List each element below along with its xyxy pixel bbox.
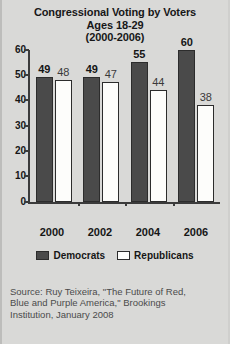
chart-title-line-2: Ages 18-29 xyxy=(12,19,218,32)
x-axis-line xyxy=(28,202,220,204)
source-line-3: Institution, January 2008 xyxy=(10,309,222,320)
bar-democrats-2006[interactable] xyxy=(178,50,195,202)
bar-wrap: 55 xyxy=(131,50,148,202)
y-axis-tick-labels: 0102030405060 xyxy=(6,50,26,202)
bar-republicans-2000[interactable] xyxy=(55,80,72,202)
source-line-2: Blue and Purple America," Brookings xyxy=(10,297,222,308)
legend-swatch-icon xyxy=(36,251,49,260)
bar-wrap: 38 xyxy=(197,50,214,202)
bar-value-label: 49 xyxy=(38,64,50,75)
bar-wrap: 49 xyxy=(36,50,53,202)
y-tick-mark xyxy=(24,99,29,101)
chart-legend: DemocratsRepublicans xyxy=(2,250,228,261)
y-tick-mark xyxy=(24,49,29,51)
bar-group: 4947 xyxy=(78,50,126,202)
bar-wrap: 44 xyxy=(150,50,167,202)
x-tick-label-2004: 2004 xyxy=(124,226,172,238)
plot-area: 0102030405060 4948494755446038 xyxy=(6,50,222,220)
bar-wrap: 49 xyxy=(83,50,100,202)
bar-democrats-2002[interactable] xyxy=(83,77,100,201)
legend-item-republicans[interactable]: Republicans xyxy=(117,250,193,261)
legend-label: Democrats xyxy=(53,250,105,261)
bar-value-label: 38 xyxy=(200,92,212,103)
y-tick-mark xyxy=(24,175,29,177)
bar-value-label: 44 xyxy=(152,77,164,88)
legend-label: Republicans xyxy=(134,250,193,261)
x-tick-label-2002: 2002 xyxy=(76,226,124,238)
bar-republicans-2006[interactable] xyxy=(197,105,214,201)
bar-wrap: 60 xyxy=(178,50,195,202)
x-tick-label-2006: 2006 xyxy=(172,226,220,238)
bar-wrap: 47 xyxy=(102,50,119,202)
x-tick-mark xyxy=(125,202,127,206)
y-tick-mark xyxy=(24,150,29,152)
bar-republicans-2004[interactable] xyxy=(150,90,167,201)
bar-group: 6038 xyxy=(173,50,221,202)
chart-figure: Congressional Voting by Voters Ages 18-2… xyxy=(0,0,230,344)
x-tick-label-2000: 2000 xyxy=(28,226,76,238)
chart-title-line-1: Congressional Voting by Voters xyxy=(12,6,218,19)
source-note: Source: Ruy Teixeira, "The Future of Red… xyxy=(10,286,222,320)
bar-value-label: 49 xyxy=(86,64,98,75)
x-tick-mark xyxy=(173,202,175,206)
bar-group: 4948 xyxy=(30,50,78,202)
legend-item-democrats[interactable]: Democrats xyxy=(36,250,105,261)
bar-group: 5544 xyxy=(125,50,173,202)
bar-value-label: 48 xyxy=(57,67,69,78)
source-line-1: Source: Ruy Teixeira, "The Future of Red… xyxy=(10,286,222,297)
x-axis-tick-labels: 2000200220042006 xyxy=(28,226,220,238)
bars-layer: 4948494755446038 xyxy=(30,50,220,202)
y-tick-mark xyxy=(24,125,29,127)
bar-wrap: 48 xyxy=(55,50,72,202)
bar-value-label: 60 xyxy=(181,37,193,48)
bar-value-label: 47 xyxy=(105,69,117,80)
bar-democrats-2004[interactable] xyxy=(131,62,148,201)
x-tick-mark xyxy=(78,202,80,206)
chart-title: Congressional Voting by Voters Ages 18-2… xyxy=(2,0,228,44)
y-tick-mark xyxy=(24,74,29,76)
legend-swatch-icon xyxy=(117,251,130,260)
bar-republicans-2002[interactable] xyxy=(102,82,119,201)
bar-value-label: 55 xyxy=(133,49,145,60)
bar-democrats-2000[interactable] xyxy=(36,77,53,201)
y-tick-mark xyxy=(24,201,29,203)
